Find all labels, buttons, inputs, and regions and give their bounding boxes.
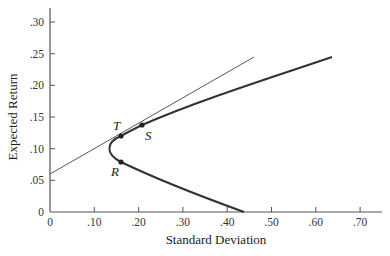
x-ticks bbox=[94, 207, 360, 212]
x-tick-label: 0 bbox=[47, 216, 53, 228]
x-tick-label: .40 bbox=[220, 216, 235, 228]
y-tick-label: .15 bbox=[30, 111, 45, 123]
x-tick-label: .10 bbox=[87, 216, 102, 228]
y-axis-title: Expected Return bbox=[5, 73, 20, 160]
point-S-label: S bbox=[145, 128, 152, 143]
x-tick-labels: 0 .10 .20 .30 .40 .50 .60 .70 bbox=[47, 216, 367, 228]
tangent-line bbox=[50, 57, 254, 174]
point-T-marker bbox=[118, 133, 123, 138]
y-ticks bbox=[50, 22, 55, 180]
y-tick-label: 0 bbox=[38, 206, 44, 218]
y-tick-label: .20 bbox=[30, 79, 45, 91]
x-tick-label: .70 bbox=[353, 216, 368, 228]
y-tick-label: .05 bbox=[30, 174, 45, 186]
x-tick-label: .50 bbox=[264, 216, 279, 228]
y-tick-labels: 0 .05 .10 .15 .20 .25 .30 bbox=[30, 16, 45, 218]
chart: 0 .05 .10 .15 .20 .25 .30 0 .10 .20 .30 … bbox=[0, 0, 390, 256]
frontier-curve bbox=[109, 57, 332, 212]
point-S-marker bbox=[139, 122, 144, 127]
point-R-label: R bbox=[110, 164, 119, 179]
x-tick-label: .30 bbox=[176, 216, 191, 228]
y-tick-label: .30 bbox=[30, 16, 45, 28]
y-tick-label: .10 bbox=[30, 143, 45, 155]
x-tick-label: .20 bbox=[131, 216, 146, 228]
x-tick-label: .60 bbox=[309, 216, 324, 228]
point-T-label: T bbox=[113, 118, 121, 133]
point-R-marker bbox=[118, 159, 123, 164]
x-axis-title: Standard Deviation bbox=[166, 232, 267, 247]
y-tick-label: .25 bbox=[30, 48, 45, 60]
